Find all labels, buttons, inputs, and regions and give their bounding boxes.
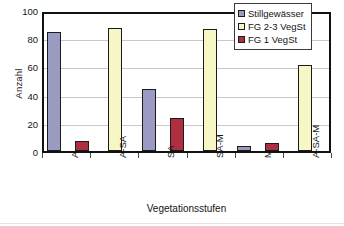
legend-item: Stillgewässer — [238, 7, 306, 20]
legend-item: FG 1 VegSt — [238, 33, 306, 46]
legend-item-label: FG 2-3 VegSt — [248, 22, 306, 32]
x-axis-title: Vegetationsstufen — [42, 203, 331, 214]
legend-item: FG 2-3 VegSt — [238, 20, 306, 33]
bar-group — [187, 14, 235, 151]
x-tick-mark — [331, 153, 332, 158]
legend-swatch-icon — [238, 10, 245, 17]
x-tick-label: M — [263, 150, 273, 158]
x-tick-label: A-SA-M — [311, 125, 321, 158]
x-tick-label: A — [70, 152, 80, 158]
y-tick-label: 100 — [8, 7, 38, 17]
legend-swatch-icon — [238, 23, 245, 30]
legend-item-label: FG 1 VegSt — [248, 35, 297, 45]
bar-group — [92, 14, 140, 151]
bar — [108, 28, 122, 151]
x-axis-tick-labels: AA-SASASA-MMA-SA-M — [42, 158, 331, 202]
y-tick-label: 20 — [8, 120, 38, 130]
bar — [237, 146, 251, 151]
legend: Stillgewässer FG 2-3 VegSt FG 1 VegSt — [234, 3, 312, 50]
bar — [203, 29, 217, 151]
x-tick-label: SA — [166, 145, 176, 158]
bar-group — [44, 14, 92, 151]
y-tick-label: 80 — [8, 35, 38, 45]
legend-item-label: Stillgewässer — [248, 9, 304, 19]
x-tick-label: SA-M — [215, 134, 225, 158]
y-tick-label: 60 — [8, 64, 38, 74]
bar-chart: Anzahl 100 80 60 40 20 0 AA-SASASA-MMA-S… — [0, 0, 344, 226]
y-tick-label: 40 — [8, 92, 38, 102]
bar-group — [139, 14, 187, 151]
bar — [47, 32, 61, 151]
bar — [75, 141, 89, 151]
y-tick-label: 0 — [8, 148, 38, 158]
legend-swatch-icon — [238, 36, 245, 43]
x-tick-label: A-SA — [118, 136, 128, 158]
bar — [142, 89, 156, 151]
y-axis-tick-labels: 100 80 60 40 20 0 — [8, 12, 38, 153]
scan-artifact-line — [0, 223, 344, 224]
